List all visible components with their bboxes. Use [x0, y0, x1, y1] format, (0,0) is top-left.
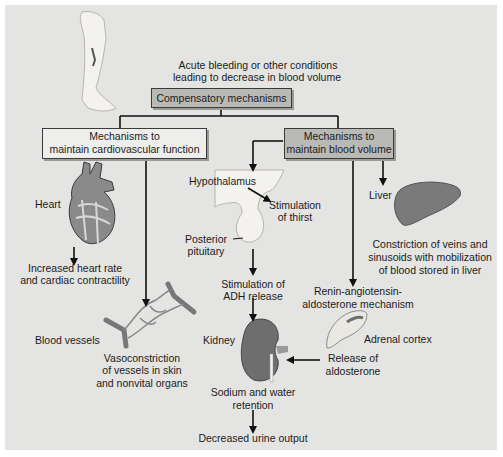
adh-line2: ADH release	[218, 290, 288, 303]
liver-label: Liver	[369, 189, 392, 202]
adrenal-cortex-label: Adrenal cortex	[364, 333, 432, 346]
kidney-effect-line1: Sodium and water	[206, 386, 300, 399]
pituitary-line2: pituitary	[180, 245, 232, 258]
vessels-effect-line1: Vasoconstriction	[92, 352, 192, 365]
volume-box-line1: Mechanisms to	[285, 130, 393, 143]
vessels-effect-line3: and nonvital organs	[92, 377, 192, 390]
trigger-text-line2: leading to decrease in blood volume	[137, 71, 377, 84]
heart-effect-line2: and cardiac contractility	[14, 274, 136, 287]
vessels-effect-line2: of vessels in skin	[92, 364, 192, 377]
blood-vessels-label: Blood vessels	[35, 334, 100, 347]
thirst-line1: Stimulation	[264, 199, 326, 212]
cardio-box-line1: Mechanisms to	[43, 130, 206, 143]
cardiovascular-mechanisms-box: Mechanisms to maintain cardiovascular fu…	[42, 128, 207, 159]
heart-label: Heart	[35, 198, 61, 211]
trigger-text-line1: Acute bleeding or other conditions	[143, 59, 373, 72]
pituitary-line1: Posterior	[180, 233, 232, 246]
aldosterone-line1: Release of	[320, 352, 386, 365]
kidney-label: Kidney	[203, 334, 235, 347]
liver-effect-line2: sinusoids with mobilization	[360, 251, 500, 264]
compensatory-mechanisms-label: Compensatory mechanisms	[156, 92, 286, 104]
compensatory-mechanisms-box: Compensatory mechanisms	[151, 88, 292, 108]
liver-effect-line1: Constriction of veins and	[360, 238, 500, 251]
heart-effect-line1: Increased heart rate	[14, 262, 136, 275]
liver-effect-line3: of blood stored in liver	[360, 264, 500, 277]
adh-line1: Stimulation of	[218, 278, 288, 291]
raas-line2: aldosterone mechanism	[295, 298, 421, 311]
thirst-line2: of thirst	[264, 211, 326, 224]
aldosterone-line2: aldosterone	[320, 365, 386, 378]
cardio-box-line2: maintain cardiovascular function	[43, 143, 206, 156]
blood-volume-mechanisms-box: Mechanisms to maintain blood volume	[284, 128, 394, 159]
raas-line1: Renin-angiotensin-	[303, 285, 413, 298]
hypothalamus-label: Hypothalamus	[189, 175, 256, 188]
volume-box-line2: maintain blood volume	[285, 143, 393, 156]
urine-output-outcome: Decreased urine output	[190, 432, 316, 445]
kidney-effect-line2: retention	[206, 399, 300, 412]
